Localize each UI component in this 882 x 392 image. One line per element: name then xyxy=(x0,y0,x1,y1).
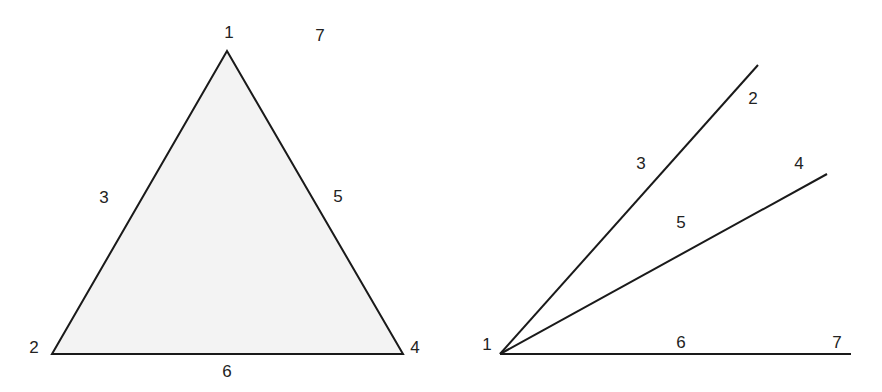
ray-upper xyxy=(500,65,758,354)
triangle-label-base-6: 6 xyxy=(222,363,231,380)
rays-label-2: 2 xyxy=(748,90,757,107)
rays-label-6: 6 xyxy=(676,334,685,351)
diagram-drawing xyxy=(0,0,882,392)
triangle-label-bottom-left-2: 2 xyxy=(29,339,38,356)
rays-label-origin-1: 1 xyxy=(482,336,491,353)
triangle-label-outside-7: 7 xyxy=(315,27,324,44)
ray-middle xyxy=(500,174,827,354)
rays-label-7: 7 xyxy=(832,334,841,351)
triangle-label-bottom-right-4: 4 xyxy=(410,339,419,356)
rays-label-5: 5 xyxy=(676,214,685,231)
triangle-label-right-side-5: 5 xyxy=(333,188,342,205)
triangle-label-left-side-3: 3 xyxy=(99,189,108,206)
rays-label-4: 4 xyxy=(794,155,803,172)
triangle-label-apex-1: 1 xyxy=(224,24,233,41)
rays-label-3: 3 xyxy=(636,155,645,172)
diagram-canvas: 1 7 3 5 2 4 6 2 3 4 5 1 6 7 xyxy=(0,0,882,392)
